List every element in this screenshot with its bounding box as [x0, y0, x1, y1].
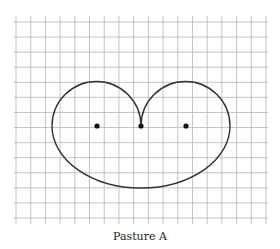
- left-point: [94, 123, 99, 128]
- center-point: [138, 123, 143, 128]
- figure-caption: Pasture A: [0, 230, 280, 243]
- right-point: [183, 123, 188, 128]
- pasture-diagram: [0, 0, 280, 249]
